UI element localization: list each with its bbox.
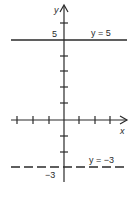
line-label-y-equals-neg3: y = −3 <box>89 155 114 165</box>
y-axis <box>60 5 68 182</box>
coordinate-plane-figure: y x 5 y = 5 y = −3 −3 <box>0 0 136 200</box>
x-axis <box>11 116 127 124</box>
x-axis-label: x <box>119 126 125 136</box>
intercept-label-neg3: −3 <box>45 170 55 180</box>
y-axis-label: y <box>53 5 59 15</box>
intercept-label-5: 5 <box>52 29 57 39</box>
line-label-y-equals-5: y = 5 <box>91 28 111 38</box>
